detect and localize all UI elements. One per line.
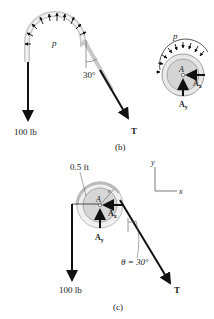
caption-c: (c) [113,302,123,312]
radius-symbol: r [108,187,111,195]
tension-label-c: T [174,285,180,295]
angle-label-b: 30° [83,70,96,80]
coordinate-axes [155,167,177,191]
pressure-label: p [51,38,57,48]
axis-y-label: y [150,158,155,167]
pin-label-b: A [178,65,184,74]
caption-b: (b) [115,142,126,152]
angle-label-c: θ = 30° [121,257,149,267]
rope-segment-fbd [25,13,128,120]
axis-x-label: x [178,187,183,196]
pulley-diagram: p 30° 100 lb T p A Ax Ay (b) [0,0,214,319]
tension-arrow-c [120,200,170,283]
pin-label-c: A [95,195,101,204]
radius-dimension-label: 0.5 ft [70,162,89,172]
ay-label-c: Ay [95,233,104,243]
tension-label-b: T [131,126,137,136]
drum-pressure-label: p [172,31,178,41]
load-label-b: 100 lb [14,127,37,137]
tension-arrow [100,70,128,118]
ay-label-b: Ay [179,100,188,110]
load-label-c: 100 lb [59,285,82,295]
